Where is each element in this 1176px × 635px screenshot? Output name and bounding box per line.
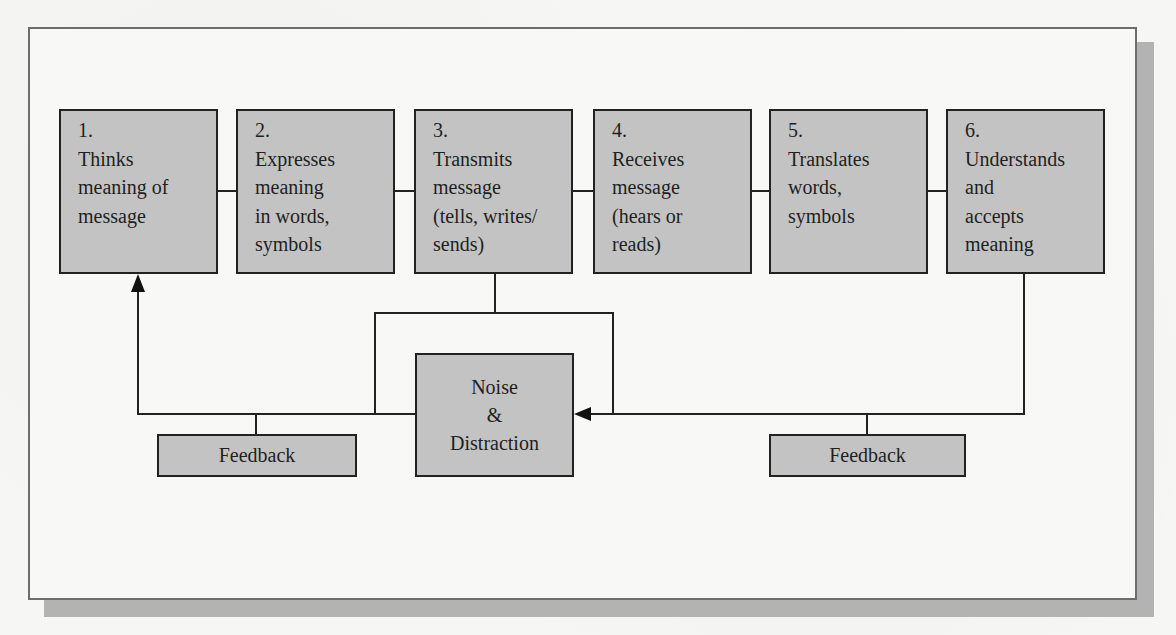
feedback-box-left: Feedback <box>157 434 357 477</box>
step-number: 6. <box>965 116 1103 145</box>
step-text-line: Thinks <box>78 145 216 174</box>
step-text-line: reads) <box>612 230 750 259</box>
step-box-4: 4. Receives message (hears or reads) <box>593 109 752 274</box>
step-box-3: 3. Transmits message (tells, writes/ sen… <box>414 109 573 274</box>
step-text-line: meaning <box>965 230 1103 259</box>
step-text-line: message <box>78 202 216 231</box>
step-box-1: 1. Thinks meaning of message <box>59 109 218 274</box>
noise-distraction-box: Noise & Distraction <box>415 353 574 477</box>
feedback-box-right: Feedback <box>769 434 966 477</box>
step-text-line: Receives <box>612 145 750 174</box>
step-box-5: 5. Translates words, symbols <box>769 109 928 274</box>
step-text-line: Transmits <box>433 145 571 174</box>
diagram-canvas: 1. Thinks meaning of message 2. Expresse… <box>0 0 1176 635</box>
noise-text-line: Noise <box>471 373 518 401</box>
step-text-line: Understands <box>965 145 1103 174</box>
feedback-label: Feedback <box>829 441 906 470</box>
step-text-line: Translates <box>788 145 926 174</box>
step-box-2: 2. Expresses meaning in words, symbols <box>236 109 395 274</box>
step-text-line: meaning of <box>78 173 216 202</box>
noise-text-line: & <box>487 401 503 429</box>
step-text-line: in words, <box>255 202 393 231</box>
step-text-line: (hears or <box>612 202 750 231</box>
step-text-line: and <box>965 173 1103 202</box>
step-text-line: message <box>433 173 571 202</box>
step-text-line: symbols <box>255 230 393 259</box>
step-text-line: Expresses <box>255 145 393 174</box>
step-box-6: 6. Understands and accepts meaning <box>946 109 1105 274</box>
step-number: 5. <box>788 116 926 145</box>
step-text-line: meaning <box>255 173 393 202</box>
step-text-line: sends) <box>433 230 571 259</box>
step-number: 3. <box>433 116 571 145</box>
step-text-line: words, <box>788 173 926 202</box>
step-number: 2. <box>255 116 393 145</box>
step-text-line: symbols <box>788 202 926 231</box>
step-text-line: accepts <box>965 202 1103 231</box>
step-number: 1. <box>78 116 216 145</box>
feedback-label: Feedback <box>219 441 296 470</box>
step-text-line: (tells, writes/ <box>433 202 571 231</box>
noise-text-line: Distraction <box>450 429 539 457</box>
step-number: 4. <box>612 116 750 145</box>
step-text-line: message <box>612 173 750 202</box>
